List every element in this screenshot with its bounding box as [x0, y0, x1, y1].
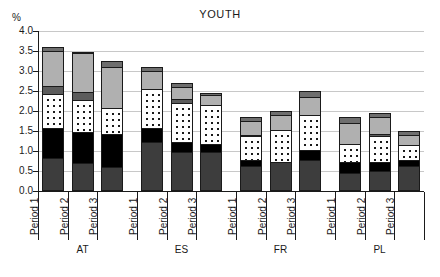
bar-segment-segment-1-dark-gray [73, 164, 93, 190]
y-axis-tick [33, 91, 38, 92]
bar-segment-segment-3-white-dotted [399, 146, 419, 161]
bar-segment-segment-1-dark-gray [43, 159, 63, 190]
category-label-12: Period 3 [385, 192, 433, 240]
bar-segment-segment-1-dark-gray [340, 174, 360, 190]
bar-segment-segment-5-light-gray [370, 118, 390, 136]
bar-segment-segment-3-white-dotted [201, 106, 221, 145]
stacked-bar[interactable] [171, 83, 193, 191]
bar-segment-segment-1-dark-gray [241, 167, 261, 190]
bar-segment-segment-4-medium-gray [43, 87, 63, 95]
category-axis: Period 1Period 2Period 3Period 1Period 2… [38, 192, 424, 240]
stacked-bar[interactable] [200, 93, 222, 191]
bar-segment-segment-2-black [73, 133, 93, 165]
bar-segment-segment-2-black [300, 151, 320, 161]
stacked-bar[interactable] [270, 111, 292, 191]
stacked-bar[interactable] [141, 67, 163, 191]
stacked-bar[interactable] [72, 52, 94, 191]
bar-segment-segment-2-black [142, 129, 162, 143]
stacked-bar[interactable] [101, 61, 123, 191]
bar-segment-segment-3-white-dotted [142, 90, 162, 129]
bar-segment-segment-3-white-dotted [300, 116, 320, 151]
y-axis-tick-label: 1.0 [3, 146, 33, 156]
stacked-bar[interactable] [42, 47, 64, 191]
bar-segment-segment-2-black [172, 143, 192, 153]
bar-segment-segment-3-white-dotted [271, 131, 291, 162]
y-axis-tick-label: 3.0 [3, 66, 33, 76]
bar-segment-segment-1-dark-gray [102, 168, 122, 190]
y-axis-tick-label: 2.5 [3, 86, 33, 96]
chart-title: YOUTH [0, 8, 440, 20]
bar-segment-segment-3-white-dotted [241, 137, 261, 160]
bar-segment-segment-1-dark-gray [142, 143, 162, 190]
bar-segment-segment-2-black [370, 163, 390, 173]
bar-segment-segment-5-light-gray [172, 88, 192, 100]
bar-segment-segment-1-dark-gray [271, 163, 291, 190]
group-label-fr: FR [251, 244, 311, 255]
bar-segment-segment-5-light-gray [73, 54, 93, 93]
y-axis-tick-label: 0.5 [3, 166, 33, 176]
bar-segment-segment-1-dark-gray [201, 153, 221, 190]
y-axis-tick-label: 2.0 [3, 106, 33, 116]
bar-segment-segment-1-dark-gray [399, 167, 419, 190]
y-axis-tick [33, 171, 38, 172]
y-axis-tick [33, 111, 38, 112]
bar-segment-segment-5-light-gray [43, 52, 63, 88]
bar-segment-segment-5-light-gray [399, 136, 419, 146]
y-axis-tick-label: 1.5 [3, 126, 33, 136]
bar-segment-segment-3-white-dotted [43, 95, 63, 129]
group-label-es: ES [152, 244, 212, 255]
bar-segment-segment-1-dark-gray [300, 161, 320, 190]
category-tick [424, 192, 425, 240]
bar-segment-segment-2-black [201, 145, 221, 153]
y-axis-tick-labels: 0.00.51.01.52.02.53.03.54.0 [0, 31, 33, 192]
stacked-bar[interactable] [339, 117, 361, 191]
bar-segment-segment-5-light-gray [201, 96, 221, 106]
y-axis-tick-label: 3.5 [3, 46, 33, 56]
stacked-bar[interactable] [369, 113, 391, 191]
bar-segment-segment-5-light-gray [271, 116, 291, 132]
bar-segment-segment-5-light-gray [241, 122, 261, 136]
plot-area [38, 31, 424, 191]
bar-segment-segment-1-dark-gray [172, 153, 192, 190]
bar-segment-segment-3-white-dotted [340, 145, 360, 163]
y-axis-tick [33, 151, 38, 152]
group-label-at: AT [53, 244, 113, 255]
y-axis-tick-label: 4.0 [3, 26, 33, 36]
stacked-bar[interactable] [398, 131, 420, 191]
bar-segment-segment-3-white-dotted [172, 104, 192, 143]
bar-segment-segment-5-light-gray [142, 72, 162, 90]
bar-segment-segment-3-white-dotted [102, 109, 122, 135]
bar-segment-segment-5-light-gray [340, 124, 360, 145]
bar-segment-segment-3-white-dotted [370, 137, 390, 162]
y-axis-unit-label: % [12, 12, 21, 23]
stacked-bar[interactable] [240, 117, 262, 191]
y-axis-tick [33, 131, 38, 132]
bar-segment-segment-5-light-gray [300, 98, 320, 116]
bar-segment-segment-5-light-gray [102, 68, 122, 109]
y-axis-tick [33, 51, 38, 52]
chart-container: YOUTH % 0.00.51.01.52.02.53.03.54.0 Peri… [0, 0, 440, 277]
bar-segment-segment-3-white-dotted [73, 101, 93, 133]
y-axis-tick [33, 31, 38, 32]
bar-segment-segment-2-black [102, 135, 122, 168]
bar-segment-segment-4-medium-gray [73, 93, 93, 101]
y-axis-tick [33, 71, 38, 72]
bar-segment-segment-2-black [340, 163, 360, 175]
bar-segment-segment-1-dark-gray [370, 172, 390, 190]
bar-segment-segment-2-black [43, 129, 63, 159]
group-label-pl: PL [350, 244, 410, 255]
y-axis-tick [33, 191, 38, 192]
stacked-bar[interactable] [299, 91, 321, 191]
